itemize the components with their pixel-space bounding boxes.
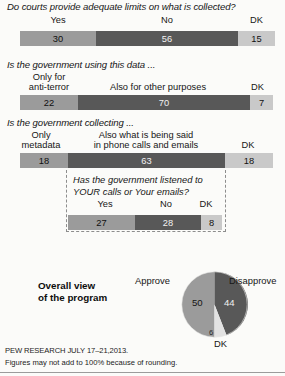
pie-value-approve: 50	[192, 297, 203, 308]
bar-segment-other-purposes: 70	[78, 95, 250, 110]
label-anti-terror-line1: Only for	[20, 72, 78, 83]
callout-title-line2: YOUR calls or Your emails?	[67, 186, 225, 198]
question-block-courts: Do courts provide adequate limits on wha…	[0, 1, 285, 26]
answer-labels-collecting: Only metadata Also what is being said in…	[0, 130, 285, 152]
bar-segment-dk: 15	[238, 31, 275, 46]
label-yes: Yes	[69, 199, 141, 210]
pie-value-disapprove: 44	[224, 297, 235, 308]
footer-source: PEW RESEARCH JULY 17–21,2013.	[5, 346, 128, 357]
bar-segment-no: 56	[96, 31, 238, 46]
label-said-line2: in phone calls and emails	[70, 140, 222, 151]
bar-segment-dk: 8	[201, 215, 222, 230]
question-block-using: Is the government using this data ... On…	[0, 59, 285, 94]
label-metadata-line2: metadata	[12, 140, 70, 151]
label-no: No	[141, 199, 191, 210]
pie-caption-line2: of the program	[38, 292, 107, 305]
label-anti-terror-line2: anti-terror	[20, 82, 78, 93]
stacked-bar-courts: 30 56 15	[20, 31, 275, 46]
label-dk: DK	[240, 82, 275, 93]
bar-segment-yes: 30	[20, 31, 96, 46]
pie-caption-line1: Overall view	[38, 280, 95, 293]
answer-labels-using: Only for anti-terror Also for other purp…	[0, 72, 285, 94]
bar-segment-said: 63	[68, 153, 225, 168]
label-other-purposes: Also for other purposes	[78, 82, 238, 93]
label-yes: Yes	[20, 15, 96, 26]
callout-title-line1: Has the government listened to	[67, 170, 225, 186]
bar-segment-no: 28	[135, 215, 201, 230]
pie-value-dk: 6	[209, 328, 213, 337]
label-no: No	[96, 15, 238, 26]
bar-segment-yes: 27	[68, 215, 135, 230]
infographic-sheet: Do courts provide adequate limits on wha…	[0, 0, 285, 376]
pie-label-approve: Approve	[135, 275, 170, 286]
question-title-collecting: Is the government collecting ...	[0, 117, 285, 128]
question-title-courts: Do courts provide adequate limits on wha…	[0, 1, 285, 12]
question-block-collecting: Is the government collecting ... Only me…	[0, 117, 285, 152]
bar-segment-metadata: 18	[20, 153, 68, 168]
footer-divider	[0, 372, 285, 373]
bar-segment-dk: 7	[250, 95, 273, 110]
question-title-using: Is the government using this data ...	[0, 59, 285, 70]
label-dk: DK	[226, 140, 270, 151]
footer-note: Figures may not add to 100% because of r…	[5, 358, 177, 369]
label-dk: DK	[238, 15, 275, 26]
answer-labels-listened: Yes No DK	[67, 199, 225, 210]
label-said-line1: Also what is being said	[70, 130, 222, 141]
pie-label-disapprove: Disapprove	[229, 275, 276, 286]
label-metadata-line1: Only	[12, 130, 70, 141]
stacked-bar-collecting: 18 63 18	[20, 153, 273, 168]
stacked-bar-listened: 27 28 8	[68, 215, 222, 230]
answer-labels-courts: Yes No DK	[0, 15, 285, 26]
bar-segment-anti-terror: 22	[20, 95, 78, 110]
pie-label-dk: DK	[214, 338, 227, 349]
label-dk: DK	[191, 199, 221, 210]
stacked-bar-using: 22 70 7	[20, 95, 273, 110]
bar-segment-dk: 18	[225, 153, 273, 168]
